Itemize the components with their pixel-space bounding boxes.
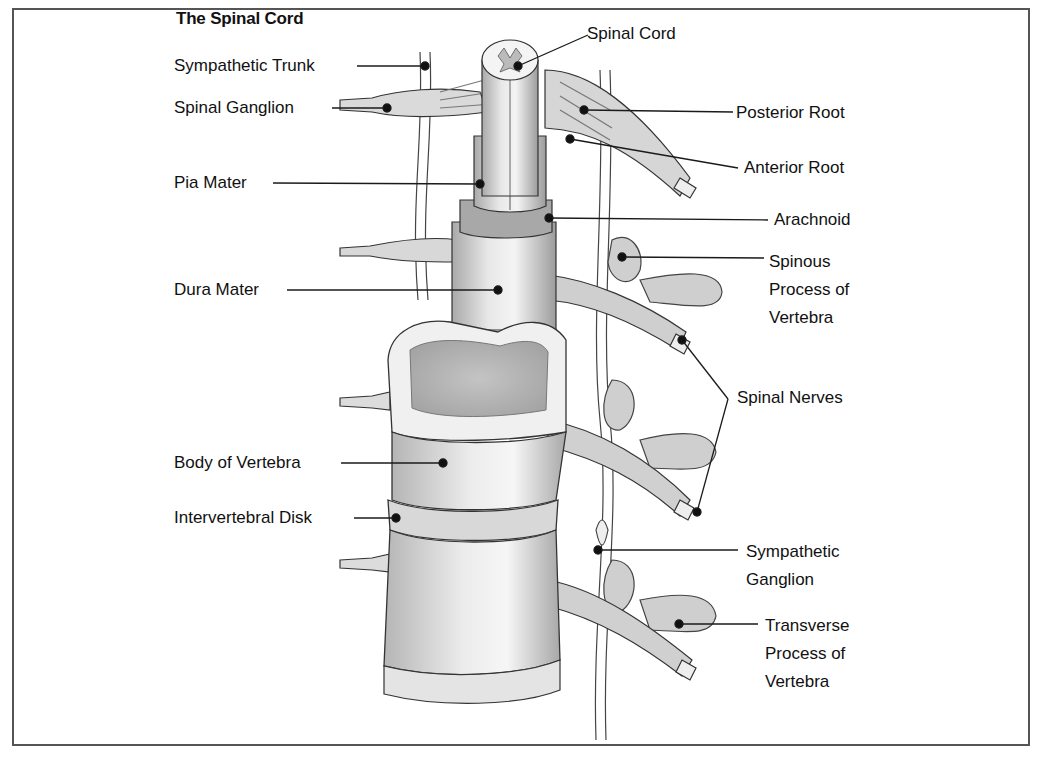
label-line: Vertebra [765, 668, 849, 696]
vertebral-body-lower [384, 530, 560, 675]
label-intervertebral-disk: Intervertebral Disk [174, 504, 312, 532]
vertebral-body-upper [388, 321, 566, 510]
label-sympathetic-ganglion: Sympathetic Ganglion [746, 538, 840, 594]
label-spinous-process: Spinous Process of Vertebra [769, 248, 849, 332]
label-transverse-process: Transverse Process of Vertebra [765, 612, 849, 696]
label-sympathetic-trunk: Sympathetic Trunk [174, 52, 315, 80]
label-spinal-nerves: Spinal Nerves [737, 384, 843, 412]
label-line: Process of [765, 640, 849, 668]
label-posterior-root: Posterior Root [736, 99, 845, 127]
label-spinal-ganglion: Spinal Ganglion [174, 94, 294, 122]
label-spinal-cord: Spinal Cord [587, 20, 676, 48]
label-line: Spinous [769, 248, 849, 276]
figure-title: The Spinal Cord [176, 9, 303, 29]
label-arachnoid: Arachnoid [774, 206, 851, 234]
label-anterior-root: Anterior Root [744, 154, 844, 182]
label-line: Sympathetic [746, 538, 840, 566]
left-spinal-nerve-top [340, 78, 492, 117]
label-line: Transverse [765, 612, 849, 640]
spinal-cord-illustration [0, 0, 1044, 758]
label-body-of-vertebra: Body of Vertebra [174, 449, 301, 477]
label-line: Process of [769, 276, 849, 304]
label-dura-mater: Dura Mater [174, 276, 259, 304]
label-line: Ganglion [746, 566, 840, 594]
label-pia-mater: Pia Mater [174, 169, 247, 197]
label-line: Vertebra [769, 304, 849, 332]
right-nerve-roots-top [545, 70, 696, 198]
